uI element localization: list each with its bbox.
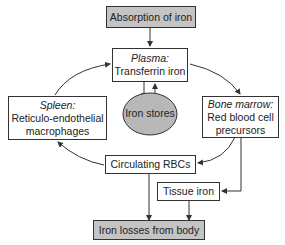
tissue-label: Tissue iron [163, 185, 214, 198]
marrow-title: Bone marrow: [208, 98, 273, 111]
tissue-iron-node: Tissue iron [157, 182, 220, 201]
rbcs-label: Circulating RBCs [111, 158, 191, 171]
iron-cycle-diagram: Absorption of iron Plasma: Transferrin i… [0, 0, 285, 245]
iron-stores-label: Iron stores [123, 107, 177, 119]
marrow-line1: Red blood cell [207, 111, 274, 124]
iron-losses-node: Iron losses from body [93, 220, 205, 240]
circulating-rbcs-node: Circulating RBCs [105, 155, 196, 174]
losses-label: Iron losses from body [99, 224, 199, 237]
marrow-line2: precursors [216, 124, 266, 137]
bone-marrow-node: Bone marrow: Red blood cell precursors [202, 96, 279, 138]
